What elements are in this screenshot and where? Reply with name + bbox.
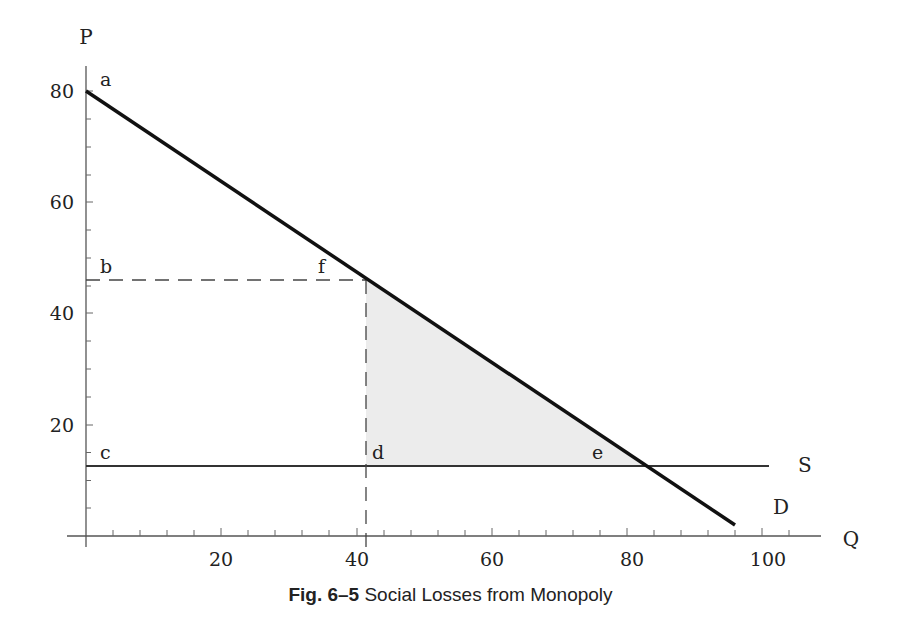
figure-caption: Fig. 6–5 Social Losses from Monopoly: [0, 584, 901, 606]
x-axis-title: Q: [843, 527, 859, 551]
x-tick-label-20: 20: [209, 548, 233, 570]
curve-label-s: S: [798, 453, 812, 477]
y-axis-title: P: [79, 25, 92, 49]
point-label-d: d: [372, 441, 384, 463]
curve-label-d: D: [773, 495, 789, 519]
point-label-c: c: [100, 441, 111, 463]
y-tick-label-20: 20: [50, 414, 74, 436]
x-tick-label-40: 40: [345, 548, 369, 570]
x-tick-label-100: 100: [750, 548, 786, 570]
figure-title: Social Losses from Monopoly: [359, 584, 612, 605]
point-label-b: b: [100, 255, 112, 277]
x-ticks: [113, 528, 789, 536]
point-label-a: a: [100, 68, 111, 90]
point-label-f: f: [318, 255, 327, 277]
point-label-e: e: [592, 441, 603, 463]
chart-canvas: 80 60 40 20 20 40 60 80 100 P Q a b c d …: [0, 0, 901, 631]
x-tick-label-60: 60: [480, 548, 504, 570]
y-tick-label-60: 60: [50, 191, 74, 213]
y-ticks: [86, 91, 93, 508]
x-tick-label-80: 80: [620, 548, 644, 570]
figure-number: Fig. 6–5: [288, 584, 359, 605]
y-tick-label-80: 80: [50, 80, 74, 102]
y-tick-label-40: 40: [50, 302, 74, 324]
